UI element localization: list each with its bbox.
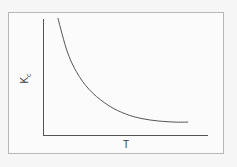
x-axis-label-text: T xyxy=(123,139,129,150)
y-axis-label: Kc xyxy=(19,73,32,83)
y-axis-label-subscript: c xyxy=(25,73,32,77)
kc-curve xyxy=(58,18,188,122)
x-axis-label: T xyxy=(123,139,129,150)
y-axis-label-text: K xyxy=(19,77,30,84)
chart-plot-area xyxy=(0,0,237,167)
